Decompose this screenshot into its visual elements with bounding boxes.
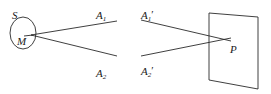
optics-ray-diagram-figure: S M A1 A2 A1′ A2′ P [0, 0, 271, 94]
label-ray-a2-subscript: 2 [103, 73, 107, 81]
label-ray-a2: A2 [96, 64, 106, 80]
label-ray-a1-subscript: 1 [103, 15, 107, 23]
label-source-s: S [12, 10, 18, 21]
label-point-m: M [17, 36, 26, 47]
right-diagram-group [141, 13, 258, 89]
label-ray-a1-prime-mark: ′ [151, 8, 153, 20]
label-ray-a1: A1 [96, 6, 106, 22]
label-ray-a1-base: A [96, 9, 103, 21]
label-intersection-p: P [230, 44, 237, 55]
label-ray-a2-prime-base: A [141, 65, 148, 77]
label-ray-a2-prime: A2′ [141, 62, 154, 78]
label-ray-a2-prime-mark: ′ [151, 64, 153, 76]
ray-a1-line [31, 21, 117, 35]
label-ray-a2-base: A [96, 67, 103, 79]
ray-a2-line [31, 35, 117, 56]
ray-a2-prime-line [141, 38, 231, 56]
label-ray-a1-prime-base: A [141, 9, 148, 21]
label-ray-a1-prime: A1′ [141, 6, 154, 22]
ray-a1-prime-line [141, 20, 231, 41]
